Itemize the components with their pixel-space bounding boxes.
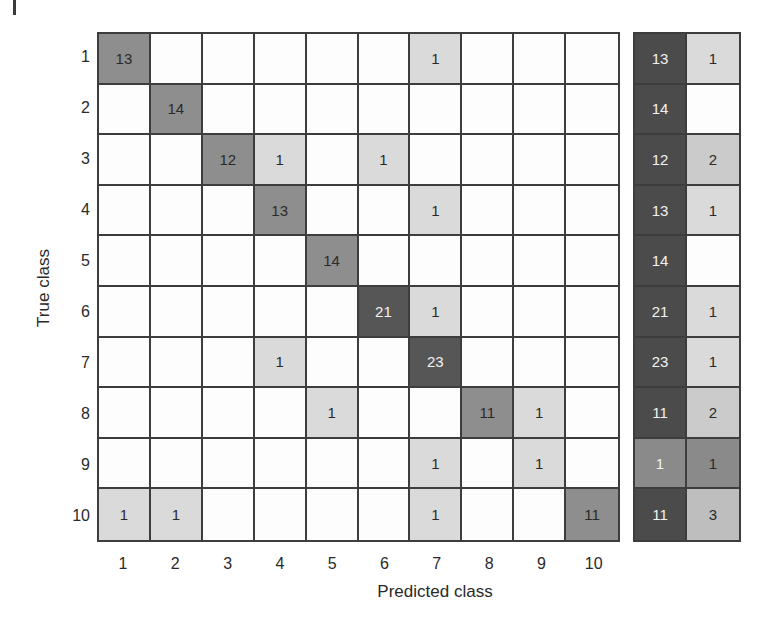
summary-incorrect-cell: 1 — [687, 186, 739, 237]
x-tick-label: 10 — [568, 555, 620, 573]
matrix-cell — [462, 236, 514, 287]
y-tick-label: 1 — [60, 48, 90, 66]
matrix-cell — [462, 489, 514, 540]
summary-correct-cell: 12 — [635, 135, 687, 186]
matrix-cell — [410, 85, 462, 136]
x-tick-label: 8 — [463, 555, 515, 573]
x-tick-label: 9 — [515, 555, 567, 573]
matrix-cell — [255, 34, 307, 85]
matrix-cell — [99, 236, 151, 287]
y-tick-label: 9 — [60, 456, 90, 474]
matrix-cell — [151, 287, 203, 338]
matrix-cell: 1 — [255, 338, 307, 389]
matrix-cell — [99, 439, 151, 490]
matrix-cell — [359, 338, 411, 389]
y-tick-label: 7 — [60, 354, 90, 372]
matrix-cell — [514, 489, 566, 540]
matrix-cell — [566, 439, 618, 490]
matrix-cell — [151, 388, 203, 439]
y-axis-label: True class — [34, 249, 54, 327]
matrix-cell — [99, 338, 151, 389]
matrix-cell — [307, 439, 359, 490]
summary-matrix: 131141221311421123111211113 — [633, 32, 741, 542]
summary-correct-cell: 11 — [635, 489, 687, 540]
matrix-cell: 1 — [151, 489, 203, 540]
matrix-cell — [307, 338, 359, 389]
matrix-cell — [566, 85, 618, 136]
matrix-cell — [514, 34, 566, 85]
matrix-cell — [410, 236, 462, 287]
matrix-cell — [566, 338, 618, 389]
matrix-cell — [359, 439, 411, 490]
matrix-cell — [462, 85, 514, 136]
y-tick-label: 6 — [60, 303, 90, 321]
y-tick-label: 2 — [60, 99, 90, 117]
y-tick-label: 4 — [60, 201, 90, 219]
matrix-cell — [255, 489, 307, 540]
matrix-cell: 1 — [410, 34, 462, 85]
matrix-cell: 1 — [99, 489, 151, 540]
x-tick-label: 1 — [97, 555, 149, 573]
matrix-cell: 21 — [359, 287, 411, 338]
matrix-cell — [255, 439, 307, 490]
matrix-cell: 11 — [566, 489, 618, 540]
matrix-cell — [203, 489, 255, 540]
matrix-cell — [203, 388, 255, 439]
matrix-cell — [307, 85, 359, 136]
matrix-cell — [514, 236, 566, 287]
summary-incorrect-cell: 1 — [687, 338, 739, 389]
summary-incorrect-cell: 1 — [687, 34, 739, 85]
matrix-cell — [255, 287, 307, 338]
matrix-cell: 14 — [151, 85, 203, 136]
summary-correct-cell: 23 — [635, 338, 687, 389]
matrix-cell — [359, 34, 411, 85]
matrix-cell — [203, 338, 255, 389]
matrix-cell — [203, 287, 255, 338]
matrix-cell — [203, 186, 255, 237]
matrix-cell: 1 — [410, 287, 462, 338]
matrix-cell — [99, 388, 151, 439]
matrix-cell: 23 — [410, 338, 462, 389]
matrix-cell: 1 — [410, 186, 462, 237]
x-tick-label: 4 — [254, 555, 306, 573]
matrix-cell: 14 — [307, 236, 359, 287]
matrix-cell — [566, 287, 618, 338]
matrix-cell — [99, 135, 151, 186]
matrix-cell — [307, 135, 359, 186]
matrix-cell: 1 — [359, 135, 411, 186]
x-tick-label: 2 — [149, 555, 201, 573]
summary-incorrect-cell: 2 — [687, 135, 739, 186]
matrix-cell — [462, 34, 514, 85]
matrix-cell — [359, 388, 411, 439]
matrix-cell — [151, 135, 203, 186]
matrix-cell — [410, 135, 462, 186]
matrix-cell — [255, 388, 307, 439]
matrix-cell — [462, 439, 514, 490]
matrix-cell: 1 — [410, 439, 462, 490]
matrix-cell — [255, 236, 307, 287]
matrix-cell — [151, 34, 203, 85]
matrix-cell — [203, 34, 255, 85]
x-axis-label: Predicted class — [320, 582, 550, 602]
matrix-cell — [462, 135, 514, 186]
matrix-cell — [566, 236, 618, 287]
matrix-cell: 11 — [462, 388, 514, 439]
summary-correct-cell: 1 — [635, 439, 687, 490]
matrix-cell — [99, 186, 151, 237]
matrix-cell — [514, 287, 566, 338]
corner-mark — [13, 0, 16, 15]
matrix-cell — [514, 85, 566, 136]
confusion-matrix: 1311412111311421112311111111111 — [97, 32, 620, 542]
matrix-cell — [359, 236, 411, 287]
summary-correct-cell: 14 — [635, 85, 687, 136]
matrix-cell — [255, 85, 307, 136]
x-tick-label: 7 — [411, 555, 463, 573]
matrix-cell — [151, 236, 203, 287]
matrix-cell: 1 — [307, 388, 359, 439]
matrix-cell — [307, 489, 359, 540]
matrix-cell — [566, 34, 618, 85]
matrix-cell: 1 — [514, 388, 566, 439]
summary-correct-cell: 13 — [635, 34, 687, 85]
matrix-cell — [359, 489, 411, 540]
summary-incorrect-cell: 3 — [687, 489, 739, 540]
